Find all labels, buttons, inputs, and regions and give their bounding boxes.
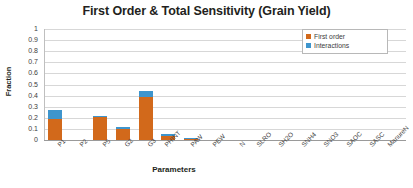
y-tick-label: 0.4 [28, 92, 38, 100]
y-tick-label: 0.7 [28, 58, 38, 66]
y-tick-label: 1 [34, 25, 38, 33]
x-tick-label: SNO3 [316, 141, 339, 187]
legend-label: Interactions [314, 41, 349, 50]
y-tick-label: 0.2 [28, 114, 38, 122]
x-axis-title: Parameters [44, 165, 304, 174]
x-tick-label: P2 [67, 141, 90, 187]
x-tick-label: SH2O [270, 141, 293, 187]
chart-title: First Order & Total Sensitivity (Grain Y… [0, 4, 413, 18]
y-tick-label: 0 [34, 136, 38, 144]
x-tick-label: G3 [135, 141, 158, 187]
bar-slot[interactable] [67, 29, 90, 140]
bar-slot[interactable] [157, 29, 180, 140]
bar-slot[interactable] [225, 29, 248, 140]
bar-slot[interactable] [248, 29, 271, 140]
bar-stack[interactable] [48, 110, 62, 140]
x-tick-label: P5 [89, 141, 112, 187]
chart-legend: First orderInteractions [302, 29, 388, 54]
bar-slot[interactable] [202, 29, 225, 140]
x-tick-label: SLRO [248, 141, 271, 187]
legend-label: First order [314, 32, 345, 41]
bar-stack[interactable] [93, 116, 107, 140]
bar-slot[interactable] [135, 29, 158, 140]
x-tick-label: ManureN [383, 141, 406, 187]
bar-slot[interactable] [89, 29, 112, 140]
x-tick-label: PEW [202, 141, 225, 187]
x-tick-text: N [238, 140, 246, 148]
y-tick-label: 0.6 [28, 69, 38, 77]
legend-swatch [306, 34, 311, 39]
bar-segment-interactions[interactable] [48, 110, 62, 119]
sensitivity-bar-chart: First Order & Total Sensitivity (Grain Y… [0, 0, 413, 188]
bar-slot[interactable] [180, 29, 203, 140]
y-tick-label: 0.3 [28, 103, 38, 111]
x-tick-label: P1 [44, 141, 67, 187]
x-tick-label: N [225, 141, 248, 187]
x-tick-label: PHINT [157, 141, 180, 187]
bar-segment-first-order[interactable] [93, 117, 107, 140]
bar-segment-first-order[interactable] [139, 97, 153, 140]
x-tick-label: G2 [112, 141, 135, 187]
y-tick-label: 0.8 [28, 47, 38, 55]
x-tick-label: SAOC [338, 141, 361, 187]
bar-slot[interactable] [270, 29, 293, 140]
x-tick-label: PAW [180, 141, 203, 187]
legend-item[interactable]: Interactions [306, 41, 384, 50]
legend-swatch [306, 43, 311, 48]
legend-item[interactable]: First order [306, 32, 384, 41]
y-tick-label: 0.5 [28, 81, 38, 89]
x-tick-label: SASC [361, 141, 384, 187]
x-tick-label: SNH4 [293, 141, 316, 187]
y-axis-tick-labels: 00.10.20.30.40.50.60.70.80.91 [0, 23, 41, 147]
y-tick-label: 0.9 [28, 36, 38, 44]
y-tick-label: 0.1 [28, 125, 38, 133]
bar-slot[interactable] [44, 29, 67, 140]
bar-stack[interactable] [139, 91, 153, 140]
bar-segment-first-order[interactable] [48, 119, 62, 140]
bar-slot[interactable] [112, 29, 135, 140]
